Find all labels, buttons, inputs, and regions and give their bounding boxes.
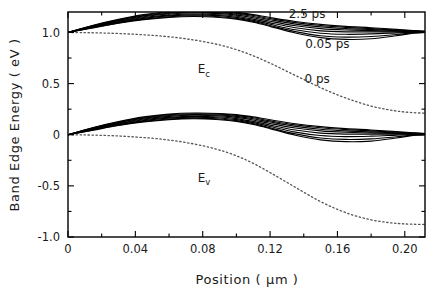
time-label-0p05ps-text: 0.05 ps <box>305 37 349 51</box>
x-tick-label: 0.08 <box>190 242 216 256</box>
chart-canvas: 00.040.080.120.160.201.00.50-0.5-1.0 2.5… <box>0 0 438 290</box>
time-label-0ps: 0 ps <box>305 72 330 86</box>
y-tick-label: 0 <box>53 128 60 142</box>
x-tick-label: 0 <box>64 242 71 256</box>
band-label-ec-subscript: c <box>205 69 210 79</box>
y-axis-title: Band Edge Energy ( eV ) <box>7 38 22 211</box>
band-label-ev-subscript: v <box>205 177 210 187</box>
y-tick-label: 0.5 <box>42 77 60 91</box>
x-tick-label: 0.12 <box>257 242 283 256</box>
time-label-2p5ps-text: 2.5 ps <box>289 7 326 21</box>
x-tick-label: 0.04 <box>123 242 149 256</box>
y-tick-label: -0.5 <box>38 179 60 193</box>
x-axis-title: Position ( μm ) <box>195 272 298 287</box>
time-label-2p5ps: 2.5 ps <box>289 7 326 21</box>
y-tick-label: -1.0 <box>38 230 60 244</box>
band-label-ec-text: E <box>198 62 206 76</box>
x-tick-label: 0.16 <box>325 242 351 256</box>
y-tick-label: 1.0 <box>42 26 60 40</box>
band-edge-energy-figure: 00.040.080.120.160.201.00.50-0.5-1.0 2.5… <box>0 0 438 290</box>
band-label-ev-text: E <box>198 171 206 185</box>
x-tick-label: 0.20 <box>392 242 418 256</box>
time-label-0ps-text: 0 ps <box>305 72 330 86</box>
time-label-0p05ps: 0.05 ps <box>305 37 349 51</box>
